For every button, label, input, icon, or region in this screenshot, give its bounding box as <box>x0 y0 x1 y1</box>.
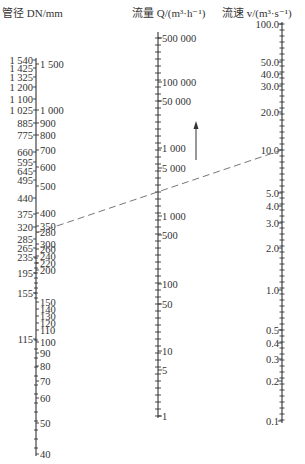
flow-scale-header: 流量 Q/(m³·h⁻¹) <box>132 6 206 20</box>
dn-left-labels: 1 5401 4251 3251 2001 1001 0258857756605… <box>9 55 36 345</box>
scale-label: 100.0 <box>255 19 279 30</box>
scale-label: 100 <box>40 337 56 348</box>
scale-label: 80 <box>40 361 51 372</box>
scale-label: 1 000 <box>162 211 186 222</box>
scale-label: 1 025 <box>9 105 33 116</box>
scale-label: 70 <box>40 376 51 387</box>
scale-label: 500 000 <box>162 33 196 44</box>
scale-label: 4.0 <box>266 201 279 212</box>
scale-label: 40.0 <box>261 69 279 80</box>
scale-label: 60 <box>40 393 51 404</box>
scale-label: 0.1 <box>266 416 279 427</box>
velocity-labels: 100.050.040.030.020.010.05.04.03.02.01.0… <box>255 19 282 427</box>
scale-label: 1 200 <box>9 82 33 93</box>
scale-label: 195 <box>17 268 33 279</box>
scale-label: 3.0 <box>266 218 279 229</box>
scale-label: 5 <box>162 365 167 376</box>
scale-label: 5 000 <box>162 163 186 174</box>
scale-label: 500 <box>40 181 56 192</box>
scale-label: 600 <box>40 162 56 173</box>
scale-label: 110 <box>40 325 55 336</box>
scale-label: 0.3 <box>266 354 279 365</box>
scale-label: 235 <box>17 252 33 263</box>
scale-label: 100 000 <box>162 77 196 88</box>
scale-label: 320 <box>17 222 33 233</box>
scale-label: 0.4 <box>266 338 280 349</box>
scale-label: 115 <box>18 334 33 345</box>
flow-labels: 500 000100 00050 0001 0005 0001 00050010… <box>158 33 196 422</box>
scale-label: 155 <box>17 288 33 299</box>
scale-label: 1 000 <box>40 105 64 116</box>
scale-label: 90 <box>40 348 51 359</box>
scale-label: 1 100 <box>9 94 33 105</box>
scale-label: 440 <box>17 193 33 204</box>
minor-ticks <box>34 24 285 448</box>
scale-label: 50.0 <box>261 57 279 68</box>
scale-label: 400 <box>40 208 56 219</box>
scale-label: 50 <box>162 299 173 310</box>
scale-label: 775 <box>17 130 33 141</box>
dashed-reference-line <box>36 150 282 233</box>
dn-scale-header: 管径 DN/mm <box>2 6 63 19</box>
scale-label: 500 <box>162 230 178 241</box>
scale-label: 1 <box>162 411 167 422</box>
scale-label: 0.2 <box>266 376 279 387</box>
scale-label: 885 <box>17 118 33 129</box>
scale-label: 280 <box>40 227 56 238</box>
scale-label: 10 <box>162 346 173 357</box>
scale-label: 50 <box>40 418 51 429</box>
dn-right-labels: 1 5001 000900800700600500400350300280260… <box>36 59 64 460</box>
scale-label: 0.5 <box>266 325 279 336</box>
nomogram: 管径 DN/mm 流量 Q/(m³·h⁻¹) 流速 v/(m³·s⁻¹) 1 5… <box>0 0 305 464</box>
scale-label: 700 <box>40 145 56 156</box>
scale-label: 900 <box>40 118 56 129</box>
scale-label: 375 <box>17 209 33 220</box>
scale-label: 30.0 <box>261 81 279 92</box>
scale-label: 1.0 <box>266 285 279 296</box>
scale-label: 40 <box>40 449 51 460</box>
scale-label: 1 500 <box>40 59 64 70</box>
scale-label: 800 <box>40 130 56 141</box>
scale-label: 2.0 <box>266 243 279 254</box>
scale-label: 495 <box>17 175 33 186</box>
scale-label: 5.0 <box>266 188 279 199</box>
scale-label: 1 000 <box>162 143 186 154</box>
scale-label: 20.0 <box>261 107 279 118</box>
scale-label: 50 000 <box>162 96 191 107</box>
arrow-up-icon <box>194 121 199 160</box>
scale-label: 100 <box>162 279 178 290</box>
scale-label: 200 <box>40 265 56 276</box>
